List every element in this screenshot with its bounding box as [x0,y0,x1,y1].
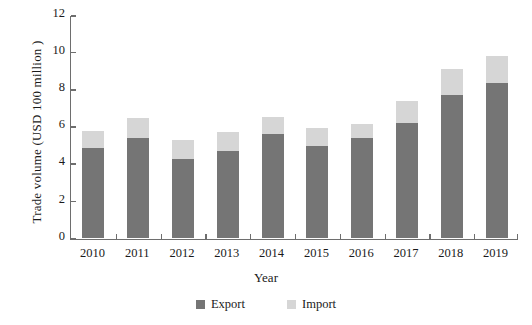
x-tick-mark [161,234,162,239]
y-tick-label: 12 [53,7,66,20]
x-tick-label-2012: 2012 [159,246,205,261]
legend-item-export[interactable]: Export [196,297,245,312]
bar-segment-import[interactable] [127,118,149,137]
y-tick-mark [71,126,76,127]
bar-segment-export[interactable] [306,146,328,238]
x-tick-label-2019: 2019 [473,246,519,261]
bar-segment-export[interactable] [172,159,194,238]
bar-segment-export[interactable] [217,151,239,237]
bar-2018[interactable] [441,69,463,238]
y-tick-mark [71,15,76,16]
bar-segment-export[interactable] [351,138,373,237]
bar-segment-import[interactable] [396,101,418,122]
x-tick-label-2015: 2015 [293,246,339,261]
x-tick-mark [429,234,430,239]
x-tick-label-2017: 2017 [383,246,429,261]
chart-figure: Trade volume (USD 100 million ) 02468101… [0,0,532,325]
legend-item-import[interactable]: Import [287,297,336,312]
bar-2016[interactable] [351,124,373,238]
y-tick-label: 6 [59,118,65,131]
bar-segment-export[interactable] [127,138,149,238]
legend-label: Import [302,297,336,312]
bar-2014[interactable] [262,117,284,238]
bar-segment-import[interactable] [172,140,194,159]
bar-2019[interactable] [486,56,508,238]
y-tick-mark [71,238,76,239]
x-axis-title: Year [0,270,532,286]
bar-segment-import[interactable] [82,131,104,148]
y-tick-mark [71,89,76,90]
x-axis-right-cap [517,234,518,239]
x-tick-mark [295,234,296,239]
y-tick-mark [71,163,76,164]
bar-segment-import[interactable] [486,56,508,83]
bar-segment-export[interactable] [486,83,508,238]
bar-segment-export[interactable] [396,123,418,238]
x-tick-label-2018: 2018 [428,246,474,261]
legend-label: Export [211,297,245,312]
bar-2012[interactable] [172,140,194,237]
plot-area: 024681012 [70,16,518,240]
y-tick-label: 8 [59,81,65,94]
x-tick-mark [205,234,206,239]
bar-segment-import[interactable] [262,117,284,134]
x-tick-label-2010: 2010 [69,246,115,261]
bar-segment-export[interactable] [262,134,284,238]
y-tick-label: 10 [53,44,66,57]
x-tick-mark [385,234,386,239]
bar-segment-import[interactable] [441,69,463,95]
y-tick-mark [71,201,76,202]
legend-swatch-icon [287,300,296,309]
bar-segment-import[interactable] [217,132,239,151]
bar-2015[interactable] [306,128,328,237]
bar-2010[interactable] [82,131,104,238]
x-tick-label-2016: 2016 [338,246,384,261]
y-tick-label: 0 [59,230,65,243]
y-tick-mark [71,52,76,53]
x-tick-mark [474,234,475,239]
bar-segment-import[interactable] [351,124,373,139]
bar-segment-export[interactable] [441,95,463,238]
x-tick-label-2013: 2013 [204,246,250,261]
y-axis-title: Trade volume (USD 100 million ) [29,7,45,257]
legend-swatch-icon [196,300,205,309]
y-tick-label: 4 [59,155,65,168]
x-tick-mark [116,234,117,239]
bar-2013[interactable] [217,132,239,238]
x-tick-mark [250,234,251,239]
bar-2011[interactable] [127,118,149,238]
x-tick-label-2011: 2011 [114,246,160,261]
x-tick-mark [340,234,341,239]
bar-2017[interactable] [396,101,418,237]
chart-legend: ExportImport [0,297,532,312]
y-tick-label: 2 [59,193,65,206]
bar-segment-export[interactable] [82,148,104,238]
x-tick-label-2014: 2014 [249,246,295,261]
bar-segment-import[interactable] [306,128,328,146]
